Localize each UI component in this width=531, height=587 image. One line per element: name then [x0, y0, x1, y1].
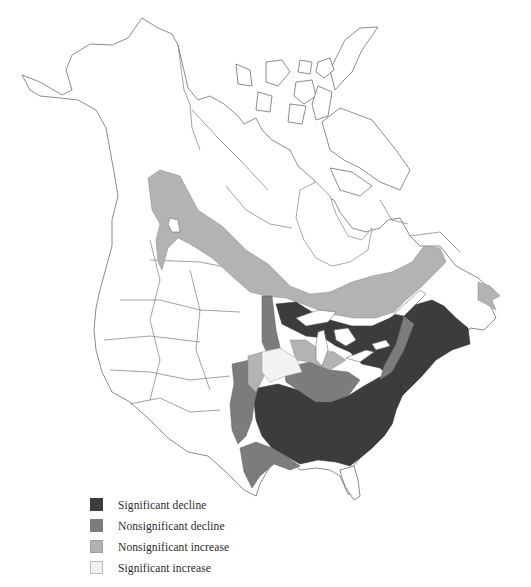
legend-label: Nonsignificant decline: [118, 520, 225, 532]
legend-item-significant-increase: Significant increase: [90, 557, 229, 578]
map-legend: Significant decline Nonsignificant decli…: [90, 494, 229, 578]
north-america-map: [0, 0, 531, 587]
legend-swatch: [90, 540, 103, 553]
legend-item-significant-decline: Significant decline: [90, 494, 229, 515]
legend-label: Significant increase: [118, 562, 211, 574]
legend-swatch: [90, 519, 103, 532]
legend-label: Nonsignificant increase: [118, 541, 229, 553]
legend-swatch: [90, 498, 103, 511]
legend-item-nonsignificant-decline: Nonsignificant decline: [90, 515, 229, 536]
legend-swatch: [90, 561, 103, 574]
legend-item-nonsignificant-increase: Nonsignificant increase: [90, 536, 229, 557]
legend-label: Significant decline: [118, 499, 206, 511]
